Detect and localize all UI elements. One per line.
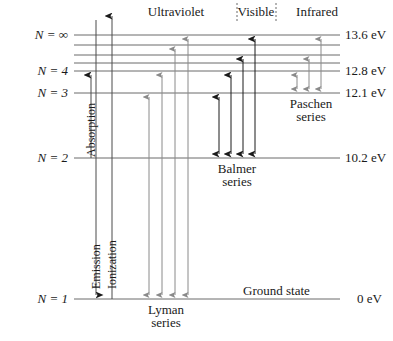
energy-label-12-8: 12.8 eV (345, 63, 386, 79)
balmer-series-arrows (219, 39, 255, 154)
emission-label: Emission (89, 244, 104, 289)
level-label-4: N = 4 (4, 63, 68, 79)
series-label-paschen: Paschen series (269, 97, 353, 124)
level-label-3: N = 3 (4, 85, 68, 101)
series-label-lyman-line2: series (151, 315, 181, 330)
ground-state-label: Ground state (243, 283, 310, 299)
region-label-ultraviolet: Ultraviolet (126, 4, 226, 20)
series-label-balmer-line2: series (222, 174, 252, 189)
ionization-label: Ionization (105, 240, 120, 289)
energy-label-13-6: 13.6 eV (345, 27, 386, 43)
paschen-series-arrows (297, 39, 321, 89)
level-label-2: N = 2 (4, 150, 68, 166)
lyman-series-arrows (149, 39, 188, 295)
energy-label-10-2: 10.2 eV (345, 150, 386, 166)
energy-level-diagram: N = ∞ N = 4 N = 3 N = 2 N = 1 13.6 eV 12… (0, 0, 393, 341)
energy-label-0: 0 eV (357, 291, 382, 307)
series-label-paschen-line2: series (296, 109, 326, 124)
absorption-label: Absorption (84, 103, 99, 157)
series-label-balmer: Balmer series (197, 162, 277, 189)
region-label-infrared: Infrared (278, 4, 356, 20)
level-label-infinity: N = ∞ (4, 27, 68, 43)
level-label-1: N = 1 (4, 291, 68, 307)
series-label-lyman: Lyman series (126, 303, 206, 330)
